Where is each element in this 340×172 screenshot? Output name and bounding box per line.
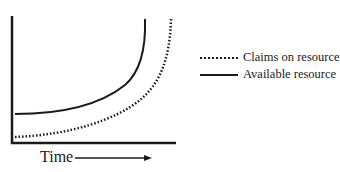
- legend: Claims on resource Available resource: [200, 49, 340, 83]
- legend-item-available: Available resource: [200, 66, 340, 83]
- dotted-line-swatch-icon: [200, 57, 238, 59]
- arrow-right-icon: [144, 155, 152, 161]
- legend-label: Claims on resource: [243, 50, 340, 65]
- solid-line-swatch-icon: [200, 74, 238, 76]
- claims-on-resource-line: [15, 19, 171, 137]
- x-axis-label: Time: [40, 148, 73, 166]
- available-resource-line: [15, 19, 145, 114]
- legend-label: Available resource: [243, 67, 336, 82]
- legend-item-claims: Claims on resource: [200, 49, 340, 66]
